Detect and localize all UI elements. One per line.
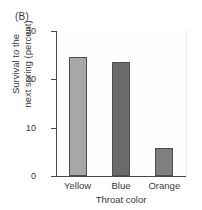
- x-axis-title: Throat color: [56, 194, 186, 205]
- y-axis-tick-label: 20: [0, 74, 36, 84]
- y-axis-tick-label: 0: [0, 171, 36, 181]
- figure-panel-b: (B) Survival to the next spring (percent…: [0, 0, 202, 210]
- x-axis-label-blue: Blue: [111, 180, 130, 191]
- bar-yellow: [69, 57, 87, 176]
- y-axis-tick-label-wrap: 10: [0, 128, 50, 138]
- y-axis-title-line-2: next spring (percent): [22, 0, 34, 130]
- y-axis-tick-label: 30: [0, 26, 36, 36]
- y-axis-title: Survival to the next spring (percent): [10, 0, 34, 130]
- bar-orange: [155, 148, 173, 176]
- y-axis-title-line-1: Survival to the: [10, 0, 22, 130]
- x-axis-line: [56, 176, 186, 177]
- y-axis-tick-label-wrap: 20: [0, 79, 50, 89]
- y-axis-tick-label-wrap: 30: [0, 31, 50, 41]
- bar-series: [56, 31, 186, 176]
- y-axis-tick-label-wrap: 0: [0, 176, 50, 186]
- x-axis-label-yellow: Yellow: [64, 180, 91, 191]
- bar-blue: [112, 62, 130, 176]
- y-axis-tick: [51, 176, 56, 177]
- y-axis-tick-label: 10: [0, 123, 36, 133]
- x-axis-label-orange: Orange: [148, 180, 180, 191]
